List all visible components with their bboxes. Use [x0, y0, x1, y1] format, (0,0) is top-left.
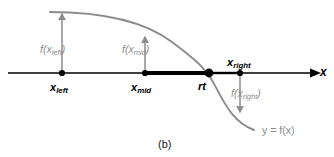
figure-caption: (b)	[158, 139, 171, 150]
label-f-x-left-sub: left	[52, 48, 62, 57]
label-f-x-mid-var: x	[128, 43, 133, 55]
f-x-left-arrowhead	[58, 13, 66, 21]
label-x-mid: xmid	[131, 82, 151, 93]
label-x-mid-sub: mid	[137, 86, 151, 95]
label-f-x-right-var: x	[237, 87, 242, 99]
marker-dot-x-left	[59, 70, 65, 76]
label-root-rt-text: rt	[198, 80, 206, 92]
label-f-x-right: f(xright)	[231, 88, 261, 99]
label-root-rt: rt	[198, 81, 206, 92]
label-f-x-mid-close: )	[146, 43, 150, 55]
f-x-mid-arrowhead	[141, 36, 149, 44]
figure-bisection-diagram: f(xleft) f(xmid) f(xright) xleft xmid rt…	[0, 0, 334, 157]
label-f-x-left-var: x	[46, 43, 51, 55]
marker-dot-root	[205, 69, 214, 78]
label-f-x-left: f(xleft)	[40, 44, 65, 55]
label-f-x-left-close: )	[62, 43, 66, 55]
label-x-right-sub: right	[233, 61, 251, 70]
label-f-x-mid-sub: mid	[134, 48, 146, 57]
label-curve-equation: y = f(x)	[262, 125, 294, 136]
label-x-left-sub: left	[56, 86, 68, 95]
marker-dot-x-right	[237, 70, 243, 76]
label-f-x-right-close: )	[257, 87, 261, 99]
label-x-right: xright	[227, 57, 251, 68]
label-x-left: xleft	[50, 82, 68, 93]
label-axis-x: x	[320, 66, 327, 78]
f-x-right-arrowhead	[236, 106, 244, 114]
marker-dot-x-mid	[142, 70, 148, 76]
label-f-x-right-sub: right	[243, 92, 258, 101]
label-f-x-mid: f(xmid)	[122, 44, 149, 55]
